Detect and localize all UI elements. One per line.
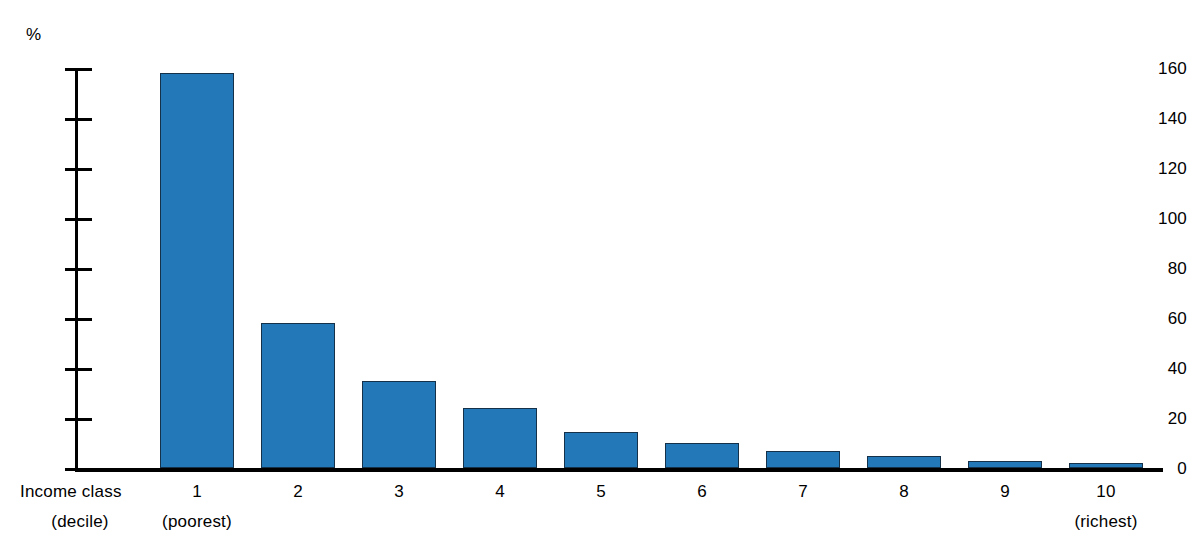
bar-decile-9 [968,461,1042,469]
bar-chart-figure: % 160 140 120 100 80 60 40 20 0 Income c… [0,0,1187,549]
x-tick-label-8: 8 [863,482,945,502]
bar-decile-7 [766,451,840,469]
bar-decile-4 [463,408,537,468]
x-tick-label-10: 10 [1065,482,1147,502]
bar-decile-10 [1069,463,1143,468]
x-tick-label-7: 7 [762,482,844,502]
x-tick-label-9: 9 [964,482,1046,502]
x-tick-label-3: 3 [358,482,440,502]
x-tick-label-6: 6 [661,482,743,502]
bar-decile-8 [867,456,941,469]
bar-decile-5 [564,432,638,468]
x-tick-label-2: 2 [257,482,339,502]
x-tick-label-4: 4 [459,482,541,502]
x-sublabel-richest: (richest) [1055,512,1157,532]
bar-decile-3 [362,381,436,469]
x-tick-label-1: 1 [156,482,238,502]
x-sublabel-poorest: (poorest) [146,512,248,532]
bar-decile-2 [261,323,335,468]
bars-layer [0,0,1187,549]
bar-decile-1 [160,73,234,468]
x-axis-title-line2: (decile) [20,512,140,532]
bar-decile-6 [665,443,739,468]
x-tick-label-5: 5 [560,482,642,502]
x-axis-title-line1: Income class [20,482,122,502]
